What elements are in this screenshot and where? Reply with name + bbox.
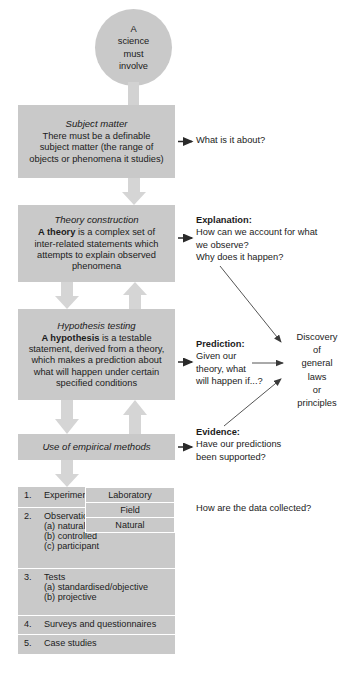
methods-row-2-number: 2. (24, 511, 32, 521)
methods-row-3-number: 3. (24, 572, 32, 582)
callout-prediction: Prediction: Given our theory, what will … (196, 338, 266, 388)
stage-box-empirical-methods: Use of empirical methods (18, 434, 175, 460)
discovery-line-5: or (288, 384, 346, 397)
theory-construction-line-2: inter-related statements which (34, 239, 158, 250)
hypothesis-testing-line-1: A hypothesis is a testable (29, 333, 165, 344)
hypothesis-testing-title: Hypothesis testing (57, 320, 135, 332)
callout-data-collection: How are the data collected? (196, 502, 346, 514)
evidence-line-2: been supported? (196, 451, 316, 463)
hypothesis-testing-line-4: what will happen under certain (29, 367, 165, 378)
subject-matter-line-1: There must be a definable (29, 131, 163, 142)
methods-row-4-label: Surveys and questionnaires (44, 619, 175, 629)
stage-box-hypothesis-testing: Hypothesis testing A hypothesis is a tes… (18, 309, 175, 400)
evidence-heading: Evidence: (196, 426, 316, 438)
experiment-setting-natural: Natural (86, 518, 174, 532)
subject-matter-line-2: subject matter (the range of (29, 142, 163, 153)
prediction-line-2: theory, what (196, 363, 266, 375)
methods-row-1-number: 1. (24, 490, 32, 500)
methods-row-case-studies: 5. Case studies (18, 635, 175, 654)
experiment-setting-field: Field (86, 503, 174, 518)
methods-row-5-label: Case studies (44, 638, 175, 648)
start-line-3: must (123, 48, 143, 60)
explanation-heading: Explanation: (196, 214, 346, 226)
discovery-outcome-text: Discovery of general laws or principles (288, 331, 346, 410)
stage-box-theory-construction: Theory construction A theory is a comple… (18, 205, 175, 282)
start-line-1: A (130, 23, 136, 35)
start-line-2: science (118, 35, 150, 47)
hypothesis-bold-lead: A hypothesis (41, 333, 99, 343)
callout-subject-question: What is it about? (196, 134, 341, 146)
stage-box-subject-matter: Subject matter There must be a definable… (18, 105, 175, 178)
callout-explanation: Explanation: How can we account for what… (196, 214, 346, 264)
block-arrow-empirical-to-methods (50, 460, 84, 487)
data-collection-text: How are the data collected? (196, 502, 346, 514)
theory-bold-lead: A theory (38, 227, 75, 237)
explanation-line-3: Why does it happen? (196, 251, 346, 263)
hypothesis-line-1-rest: is a testable (99, 333, 151, 343)
block-arrow-hypothesis-to-empirical (50, 400, 84, 434)
methods-row-4-number: 4. (24, 619, 32, 629)
start-line-4: involve (119, 60, 148, 72)
theory-construction-line-3: attempts to explain observed (34, 250, 158, 261)
methods-row-3-sub-a: (a) standardised/objective (44, 582, 175, 592)
theory-construction-title: Theory construction (54, 214, 138, 226)
start-node-circle: A science must involve (95, 9, 172, 86)
block-arrow-subject-to-theory (117, 178, 151, 205)
experiment-settings-table: Laboratory Field Natural (85, 487, 175, 533)
methods-row-5-number: 5. (24, 638, 32, 648)
explanation-line-1: How can we account for what (196, 226, 346, 238)
theory-line-1-rest: is a complex set of (75, 227, 155, 237)
experiment-setting-laboratory: Laboratory (86, 488, 174, 503)
explanation-line-2: we observe? (196, 239, 346, 251)
discovery-line-6: principles (288, 397, 346, 410)
block-arrow-theory-to-hypothesis (50, 282, 84, 309)
evidence-line-1: Have our predictions (196, 438, 316, 450)
subject-matter-title: Subject matter (66, 118, 128, 130)
methods-row-surveys: 4. Surveys and questionnaires (18, 616, 175, 635)
methods-row-2-sub-c: (c) participant (44, 541, 175, 551)
theory-construction-line-4: phenomena (34, 261, 158, 272)
flowchart-diagram: A science must involve Subject matter Th… (0, 0, 347, 681)
discovery-line-3: general (288, 357, 346, 370)
discovery-line-2: of (288, 344, 346, 357)
discovery-line-4: laws (288, 371, 346, 384)
block-arrow-hypothesis-to-theory (118, 282, 152, 309)
prediction-heading: Prediction: (196, 338, 266, 350)
hypothesis-testing-line-2: statement, derived from a theory, (29, 344, 165, 355)
discovery-line-1: Discovery (288, 331, 346, 344)
hypothesis-testing-line-5: specified conditions (29, 378, 165, 389)
methods-row-3-sub-b: (b) projective (44, 592, 175, 602)
theory-construction-line-1: A theory is a complex set of (34, 227, 158, 238)
subject-matter-line-3: objects or phenomena it studies) (29, 154, 163, 165)
prediction-line-1: Given our (196, 350, 266, 362)
methods-row-tests: 3. Tests (a) standardised/objective (b) … (18, 569, 175, 616)
empirical-methods-label: Use of empirical methods (42, 441, 150, 453)
prediction-line-3: will happen if...? (196, 375, 266, 387)
methods-row-3-label: Tests (44, 572, 175, 582)
hypothesis-testing-line-3: which makes a prediction about (29, 355, 165, 366)
subject-question-text: What is it about? (196, 134, 341, 146)
arrow-explanation-to-discovery (220, 266, 281, 342)
callout-evidence: Evidence: Have our predictions been supp… (196, 426, 316, 463)
block-arrow-empirical-to-hypothesis (118, 400, 152, 434)
